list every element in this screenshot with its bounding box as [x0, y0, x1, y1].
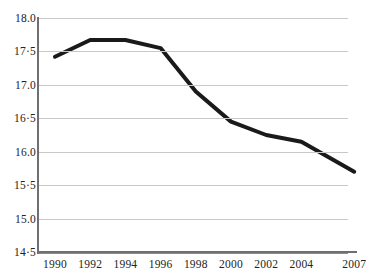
y-axis-line — [37, 17, 39, 254]
x-axis-tick-label: 2002 — [254, 258, 278, 270]
x-axis-tick-label: 2004 — [289, 258, 313, 270]
x-axis-tick-label: 1998 — [184, 258, 208, 270]
gridline — [38, 118, 348, 119]
plot-area — [38, 18, 348, 252]
gridline — [38, 85, 348, 86]
y-axis-tick-label: 15·5 — [2, 179, 36, 191]
y-axis-tick-label: 15.0 — [2, 213, 36, 225]
x-axis: 199019921994199619982000200220042007 — [0, 258, 357, 277]
x-axis-line — [37, 251, 357, 253]
y-axis-tick-label: 16·5 — [2, 112, 36, 124]
y-axis: 18.017·517.016·516.015·515.014·5 — [0, 0, 36, 277]
x-axis-tick-label: 1990 — [43, 258, 67, 270]
y-axis-tick-label: 14·5 — [2, 246, 36, 258]
gridline — [38, 152, 348, 153]
x-axis-tick-label: 1996 — [149, 258, 173, 270]
y-axis-tick-label: 17.0 — [2, 79, 36, 91]
gridline — [38, 51, 348, 52]
gridline — [38, 185, 348, 186]
y-axis-tick-label: 18.0 — [2, 12, 36, 24]
gridline — [38, 18, 348, 19]
series-line — [38, 18, 348, 252]
y-axis-tick-label: 16.0 — [2, 146, 36, 158]
x-axis-tick-label: 2007 — [342, 258, 366, 270]
x-axis-tick-label: 1994 — [113, 258, 137, 270]
x-axis-tick-label: 2000 — [219, 258, 243, 270]
gridline — [38, 219, 348, 220]
x-axis-tick-label: 1992 — [78, 258, 102, 270]
y-axis-tick-label: 17·5 — [2, 45, 36, 57]
